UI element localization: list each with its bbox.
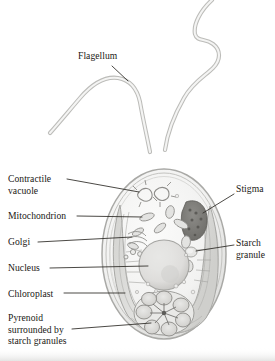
label-chloroplast: Chloroplast — [8, 288, 53, 300]
label-line: starch granules — [8, 335, 67, 347]
pyrenoid-art — [134, 291, 194, 336]
label-nucleus: Nucleus — [8, 262, 40, 274]
label-line: Golgi — [8, 236, 30, 248]
label-line: Nucleus — [8, 262, 40, 274]
label-line: Pyrenoid — [8, 312, 67, 324]
flagellum-right-art — [165, 0, 219, 150]
label-stigma: Stigma — [236, 183, 263, 195]
page-shadow — [0, 348, 275, 361]
label-mitochondrion: Mitochondrion — [8, 210, 66, 222]
stigma-art — [181, 201, 207, 240]
label-line: vacuole — [8, 185, 51, 197]
label-contractile-vacuole: Contractilevacuole — [8, 173, 51, 196]
label-line: Stigma — [236, 183, 263, 195]
flagellum-left-art — [50, 78, 150, 152]
label-starch-granule: Starchgranule — [236, 237, 265, 260]
label-line: Chloroplast — [8, 288, 53, 300]
label-line: Mitochondrion — [8, 210, 66, 222]
label-line: Flagellum — [78, 50, 117, 62]
label-line: Contractile — [8, 173, 51, 185]
label-golgi: Golgi — [8, 236, 30, 248]
label-pyrenoid: Pyrenoidsurrounded bystarch granules — [8, 312, 67, 347]
nucleus-art — [139, 240, 189, 290]
label-line: granule — [236, 249, 265, 261]
cell-diagram-figure: FlagellumContractilevacuoleMitochondrion… — [0, 0, 275, 361]
label-flagellum: Flagellum — [78, 50, 117, 62]
label-line: surrounded by — [8, 324, 67, 336]
label-line: Starch — [236, 237, 265, 249]
